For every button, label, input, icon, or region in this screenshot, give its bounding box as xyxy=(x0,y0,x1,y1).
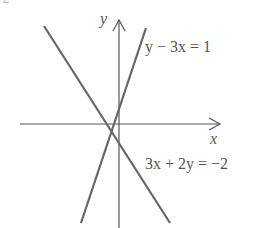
line2-label: 3x + 2y = −2 xyxy=(145,155,228,173)
line1-label: y − 3x = 1 xyxy=(145,38,211,56)
x-axis-label: x xyxy=(210,130,217,148)
y-axis-label: y xyxy=(100,10,107,28)
line-y-minus-3x-eq-1 xyxy=(81,28,146,223)
graph-canvas xyxy=(0,0,257,228)
